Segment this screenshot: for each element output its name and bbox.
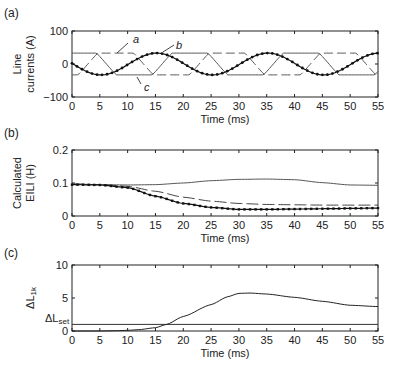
series-b-marker [141,55,144,58]
series-2-marker [277,208,279,210]
series-2-marker [154,195,156,197]
series-b-marker [236,64,239,67]
panel-b-series [71,179,379,211]
series-b-marker [216,73,219,76]
x-tick-label: 0 [69,100,75,112]
series-b-marker [231,67,234,70]
series-b-marker [256,54,259,57]
series-b-marker [376,52,379,55]
series-b-marker [316,73,319,76]
x-tick-label: 5 [97,219,103,231]
series-2-marker [254,208,256,210]
series-2-marker [110,185,112,187]
x-tick-label: 45 [316,334,328,346]
x-tick-label: 40 [288,219,300,231]
series-b-marker [326,73,329,76]
x-tick-label: 15 [149,219,161,231]
y-tick-label: 0.2 [53,144,68,156]
figure: (a) (b) (c) 05101520253035404550551000−1… [0,0,398,375]
series-b-marker [341,68,344,71]
series-b-marker [151,52,154,55]
series-b-marker [126,64,129,67]
series-b-marker [71,62,74,65]
x-tick-label: 0 [69,334,75,346]
panel-a-ylabel-line1: Line [11,54,23,75]
series-b-marker [121,67,124,70]
annotation-a: a [133,33,139,45]
series-2-marker [177,201,179,203]
panel-a-frame [72,31,378,97]
series-2-marker [366,207,368,209]
x-tick-label: 0 [69,219,75,231]
x-tick-label: 40 [288,100,300,112]
series-b-marker [371,52,374,55]
series-2-marker [221,207,223,209]
threshold-label-main: ΔL [45,312,58,324]
series-2-marker [355,207,357,209]
panel-c-series [72,293,378,331]
series-2-marker [210,206,212,208]
y-tick-label: 0 [62,58,68,70]
y-tick-label: 0 [62,325,68,337]
series-2-marker [377,207,379,209]
series-b-marker [226,70,229,73]
series-b-marker [76,65,79,68]
series-b-marker [206,73,209,76]
panel-c-ylabel: ΔL1k [24,286,38,309]
series-b-marker [261,52,264,55]
panel-b-ylabel-line2: EILI (H) [24,164,36,202]
series-b-marker [276,53,279,56]
x-tick-label: 45 [316,219,328,231]
panel-b-calculated-inductance: 05101520253035404550550.20.10 Calculated… [11,144,384,244]
x-tick-label: 50 [344,219,356,231]
panel-b-xlabel: Time (ms) [200,232,249,244]
panel-a-line-currents: 05101520253035404550551000−100 Line curr… [11,25,384,125]
x-tick-label: 35 [261,334,273,346]
series-2-marker [238,208,240,210]
series-2-marker [343,207,345,209]
series-b-marker [106,73,109,76]
series-2-marker [121,186,123,188]
series-b-marker [186,64,189,67]
series-2-marker [132,188,134,190]
series-b-marker [136,58,139,61]
x-tick-label: 55 [372,100,384,112]
series-b-marker [221,72,224,75]
series-b-marker [346,65,349,68]
series-b-marker [246,58,249,61]
series-2-marker [76,183,78,185]
panel-c-ylabel-sub: 1k [29,286,38,295]
series-b-marker [271,52,274,55]
series-b-marker [291,61,294,64]
series-2-marker [160,196,162,198]
series-2-marker [293,208,295,210]
annotation-b-leader [163,45,174,52]
series-b-marker [196,70,199,73]
series-2-marker [321,208,323,210]
series-2-marker [249,208,251,210]
x-tick-label: 55 [372,334,384,346]
series-2-marker [115,185,117,187]
series-2-marker [266,208,268,210]
panel-c-label: (c) [4,246,18,260]
x-tick-label: 35 [261,219,273,231]
series-2-marker [338,207,340,209]
series-2-marker [165,198,167,200]
series-2-marker [87,184,89,186]
series-2-marker [310,208,312,210]
series-2-marker [182,202,184,204]
series-2-marker [149,194,151,196]
series-b-marker [176,58,179,61]
series-2-marker [193,204,195,206]
series-b-marker [171,56,174,59]
threshold-label-sub: set [58,317,69,326]
series-2-marker [304,208,306,210]
series-2-marker [71,183,73,185]
series-2-marker [282,208,284,210]
series-b-marker [191,67,194,70]
annotation-c: c [144,81,150,93]
series-2-marker [260,208,262,210]
series-b-marker [181,61,184,64]
series-b-marker [361,56,364,59]
panel-c-ylabel-main: ΔL [24,295,36,308]
